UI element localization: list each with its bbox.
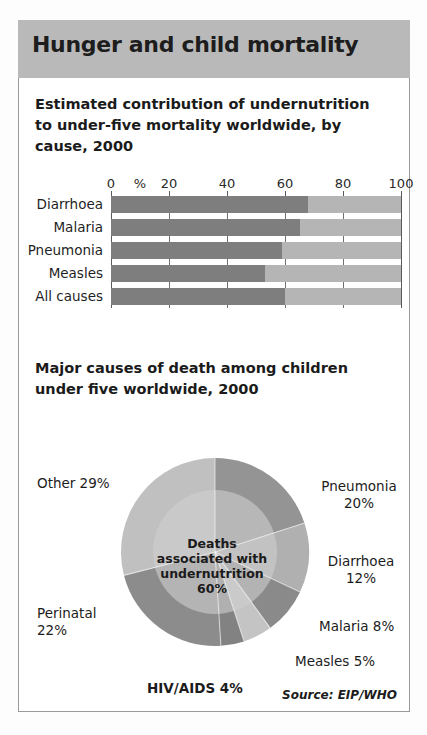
bar-chart-bars: DiarrhoeaMalariaPneumoniaMeaslesAll caus… — [111, 196, 401, 308]
bar-category-label: Pneumonia — [28, 242, 103, 259]
pie-label-malaria: Malaria 8% — [319, 618, 394, 635]
bar-chart-title-line-3: cause, 2000 — [35, 136, 385, 157]
bar-chart-title: Estimated contribution of undernutrition… — [35, 94, 385, 157]
bar-row: Malaria — [111, 219, 401, 236]
pie-label-perinatal-value: 22% — [37, 622, 96, 639]
bar-segment-undernutrition — [111, 242, 282, 259]
x-axis-tick-20: 20 — [161, 176, 178, 191]
pie-chart-svg — [112, 455, 318, 655]
source-note: Source: EIP/WHO — [282, 688, 397, 702]
pie-label-diarrhoea-value: 12% — [321, 570, 401, 587]
pie-label-perinatal-name: Perinatal — [37, 605, 96, 622]
content-panel: Estimated contribution of undernutrition… — [18, 78, 410, 712]
bar-category-label: All causes — [35, 288, 103, 305]
bar-chart-title-line-2: to under-five mortality worldwide, by — [35, 115, 385, 136]
bar-segment-undernutrition — [111, 196, 308, 213]
bar-segment-undernutrition — [111, 219, 300, 236]
bar-category-label: Diarrhoea — [37, 196, 103, 213]
page-title: Hunger and child mortality — [32, 32, 358, 57]
bar-segment-undernutrition — [111, 288, 285, 305]
infographic-figure: Hunger and child mortality Estimated con… — [0, 0, 427, 735]
bar-row: All causes — [111, 288, 401, 305]
pie-label-perinatal: Perinatal 22% — [37, 605, 96, 639]
x-axis-tick-80: 80 — [335, 176, 352, 191]
pie-chart-section: Major causes of death among children und… — [19, 350, 411, 712]
pie-label-pneumonia-value: 20% — [319, 495, 399, 512]
x-axis-tick-40: 40 — [219, 176, 236, 191]
x-axis-tick-0: 0 — [107, 176, 115, 191]
bar-row: Diarrhoea — [111, 196, 401, 213]
x-axis-tick-60: 60 — [277, 176, 294, 191]
header-band: Hunger and child mortality — [18, 20, 410, 78]
x-axis-tick-percent: % — [134, 176, 146, 191]
bar-row: Measles — [111, 265, 401, 282]
tick-mark-100 — [401, 191, 402, 197]
pie-label-diarrhoea-name: Diarrhoea — [321, 553, 401, 570]
pie-label-other: Other 29% — [37, 475, 110, 492]
pie-label-diarrhoea: Diarrhoea 12% — [321, 553, 401, 587]
pie-label-hivaids: HIV/AIDS 4% — [147, 680, 243, 697]
bar-category-label: Measles — [49, 265, 103, 282]
bar-segment-undernutrition — [111, 265, 265, 282]
pie-label-measles: Measles 5% — [295, 653, 375, 670]
pie-chart-graphic: Deaths associated with undernutrition 60… — [19, 350, 411, 712]
gridline-100 — [401, 196, 402, 308]
bar-category-label: Malaria — [53, 219, 103, 236]
pie-label-pneumonia: Pneumonia 20% — [319, 478, 399, 512]
bar-chart-title-line-1: Estimated contribution of undernutrition — [35, 94, 385, 115]
bar-chart-plot-area: 0%20406080100 DiarrhoeaMalariaPneumoniaM… — [19, 176, 411, 326]
bar-chart-section: Estimated contribution of undernutrition… — [19, 78, 411, 348]
x-axis-tick-100: 100 — [389, 176, 414, 191]
bar-row: Pneumonia — [111, 242, 401, 259]
pie-label-pneumonia-name: Pneumonia — [319, 478, 399, 495]
